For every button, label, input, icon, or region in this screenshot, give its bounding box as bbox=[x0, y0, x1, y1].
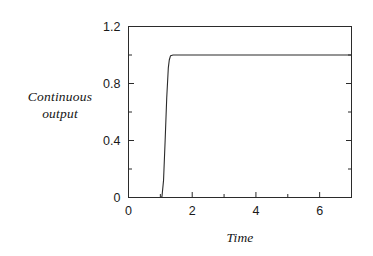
chart-screenshot: Continuous output Time 0246 00.40.81.2 bbox=[0, 0, 373, 256]
plot-area: 0246 00.40.81.2 bbox=[0, 0, 373, 256]
y-tick-label: 0.8 bbox=[103, 77, 120, 91]
y-axis-tick-labels: 00.40.81.2 bbox=[103, 20, 120, 205]
x-tick-label: 4 bbox=[252, 204, 259, 218]
plot-frame bbox=[129, 27, 352, 198]
x-tick-label: 0 bbox=[125, 204, 132, 218]
x-tick-label: 2 bbox=[189, 204, 196, 218]
y-tick-label: 0 bbox=[114, 191, 121, 205]
y-tick-label: 1.2 bbox=[103, 20, 120, 34]
line-chart-svg: 0246 00.40.81.2 bbox=[0, 0, 373, 256]
x-tick-label: 6 bbox=[316, 204, 323, 218]
x-axis-tick-labels: 0246 bbox=[125, 204, 323, 218]
y-tick-label: 0.4 bbox=[103, 134, 120, 148]
